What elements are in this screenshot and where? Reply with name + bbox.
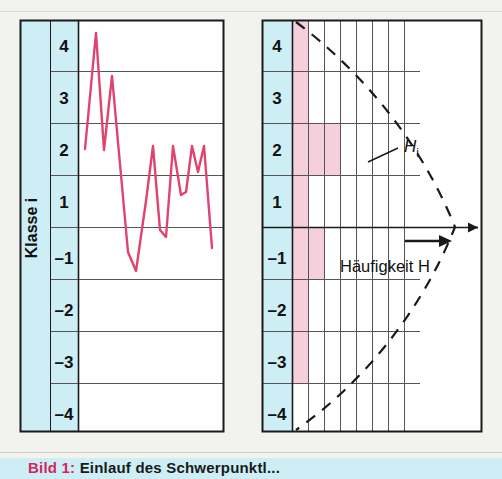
histogram-bar: [292, 279, 308, 331]
right-class-label: 4: [272, 37, 282, 56]
figure-container: 4 3 2 1 –1 –2 –3 –4 Klasse i: [0, 0, 502, 479]
histogram-bar: [292, 20, 308, 71]
class-axis-title: Klasse i: [23, 198, 40, 258]
caption: Bild 1: Einlauf des Schwerpunktl...: [28, 459, 280, 476]
caption-body: Einlauf des Schwerpunktl...: [80, 459, 280, 476]
histogram-bar: [292, 331, 308, 383]
caption-divider: [0, 452, 502, 453]
right-class-label: –2: [268, 301, 287, 320]
left-class-label: 2: [59, 141, 68, 160]
caption-strip: Bild 1: Einlauf des Schwerpunktl...: [0, 458, 502, 479]
figure-svg: 4 3 2 1 –1 –2 –3 –4 Klasse i: [0, 0, 502, 455]
hi-label-main: H: [404, 137, 417, 156]
top-divider: [0, 11, 502, 12]
caption-label: Bild 1:: [28, 459, 75, 476]
left-class-label: –3: [55, 353, 74, 372]
right-class-label: 2: [272, 141, 281, 160]
left-class-label: –1: [55, 249, 74, 268]
histogram-bar: [292, 175, 308, 227]
left-class-label: 1: [59, 193, 68, 212]
histogram-bar: [292, 71, 308, 123]
hi-label-subscript: i: [416, 146, 419, 160]
left-class-label: 4: [59, 37, 69, 56]
right-class-label: –4: [268, 405, 287, 424]
left-class-label: 3: [59, 89, 68, 108]
right-class-label: –1: [268, 249, 287, 268]
right-class-label: –3: [268, 353, 287, 372]
left-class-label: –2: [55, 301, 74, 320]
left-panel: 4 3 2 1 –1 –2 –3 –4 Klasse i: [20, 20, 224, 432]
frequency-axis-label: Häufigkeit H: [340, 257, 430, 275]
left-class-label: –4: [55, 405, 74, 424]
right-class-label: 3: [272, 89, 281, 108]
histogram-bar: [292, 123, 340, 175]
right-class-label: 1: [272, 193, 281, 212]
right-panel: Häufigkeit H Hi 4 3 2 1 –1 –2 –3 –4: [262, 20, 482, 432]
